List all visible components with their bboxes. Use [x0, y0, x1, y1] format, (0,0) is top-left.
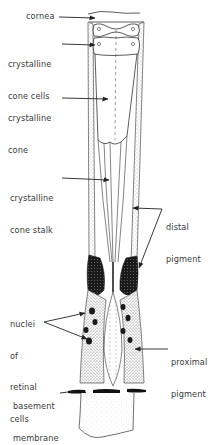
label-line: crystalline	[8, 59, 51, 70]
label-line: proximal	[171, 357, 207, 368]
crystalline-cone-cells	[93, 24, 140, 56]
crystalline-cone-stalk	[98, 136, 127, 262]
label-proximal-pigment: proximal pigment	[171, 336, 207, 410]
label-line: pigment	[171, 389, 207, 400]
label-line: basement	[13, 401, 59, 412]
label-basement-membrane: basement membrane	[13, 380, 59, 445]
pigment-sheath-walls	[88, 22, 144, 262]
basement-membrane	[68, 389, 146, 394]
axon-region	[79, 393, 134, 438]
label-cornea: cornea	[26, 11, 55, 22]
label-line: of	[10, 351, 37, 362]
label-line: crystalline	[8, 113, 51, 124]
cornea	[88, 11, 144, 22]
label-distal-pigment: distal pigment	[166, 201, 201, 275]
label-line: pigment	[166, 254, 201, 265]
label-line: cone	[8, 145, 51, 156]
label-line: nuclei	[10, 319, 37, 330]
label-line: membrane	[13, 433, 59, 444]
label-line: crystalline	[10, 193, 53, 204]
label-crystalline-cone: crystalline cone	[8, 92, 51, 166]
label-line: distal	[166, 222, 201, 233]
label-line: cone stalk	[10, 225, 53, 236]
label-crystalline-cone-stalk: crystalline cone stalk	[10, 172, 53, 246]
